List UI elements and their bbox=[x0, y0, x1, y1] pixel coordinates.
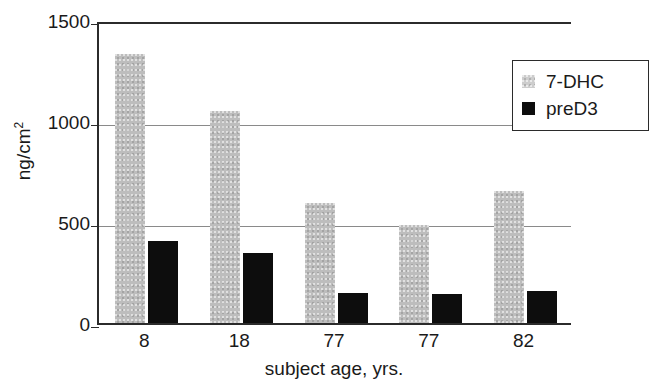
y-axis-tick-mark bbox=[91, 125, 99, 126]
bar bbox=[243, 253, 273, 323]
x-axis-tick-labels: 818777782 bbox=[97, 330, 571, 356]
y-axis-tick-label: 500 bbox=[34, 214, 90, 233]
y-axis-tick-label: 1500 bbox=[34, 12, 90, 31]
bar bbox=[432, 294, 462, 323]
bar bbox=[494, 191, 524, 323]
plot-area: 7-DHC preD3 bbox=[97, 22, 571, 325]
bar bbox=[338, 293, 368, 323]
x-axis-tick-label: 77 bbox=[381, 330, 476, 352]
x-axis-tick-label: 8 bbox=[97, 330, 192, 352]
legend: 7-DHC preD3 bbox=[512, 60, 649, 131]
y-axis-tick-mark bbox=[91, 226, 99, 227]
legend-item-7-dhc: 7-DHC bbox=[522, 68, 640, 95]
y-axis-tick-label: 1000 bbox=[34, 113, 90, 132]
x-axis-tick-label: 18 bbox=[192, 330, 287, 352]
bar bbox=[305, 203, 335, 323]
legend-swatch-7-dhc bbox=[522, 75, 535, 88]
bar bbox=[527, 291, 557, 323]
bar bbox=[148, 241, 178, 323]
legend-label-pred3: preD3 bbox=[546, 99, 598, 118]
y-axis-title-exponent: 2 bbox=[12, 122, 26, 129]
legend-swatch-pred3 bbox=[522, 102, 535, 115]
y-axis-tick-labels: 050010001500 bbox=[30, 0, 90, 384]
legend-label-7-dhc: 7-DHC bbox=[546, 72, 604, 91]
bar bbox=[210, 111, 240, 323]
bar bbox=[399, 225, 429, 323]
bar-series-container bbox=[99, 24, 571, 323]
y-axis-tick-label: 0 bbox=[34, 315, 90, 334]
x-axis-title: subject age, yrs. bbox=[97, 358, 571, 380]
y-axis-tick-mark bbox=[91, 24, 99, 25]
legend-item-pred3: preD3 bbox=[522, 95, 640, 122]
x-axis-tick-label: 82 bbox=[476, 330, 571, 352]
bar bbox=[115, 54, 145, 323]
y-axis-tick-mark bbox=[91, 327, 99, 328]
x-axis-tick-label: 77 bbox=[287, 330, 382, 352]
